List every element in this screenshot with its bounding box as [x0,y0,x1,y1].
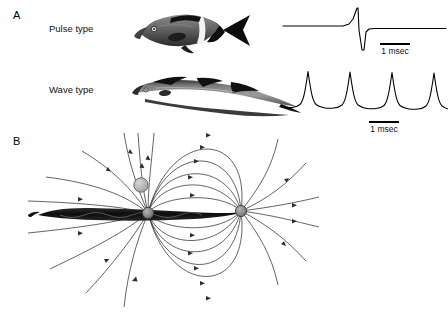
field-fish-body [38,208,244,221]
scalebar-label: 1 msec [355,124,413,134]
wave-type-fish-illustration [131,68,303,116]
field-object-sphere [134,178,148,192]
figure-root: A Pulse type Wave type [0,0,448,314]
row-label-wave-type: Wave type [49,84,94,95]
scalebar-line [380,43,410,45]
field-head-pole [142,207,153,218]
row-label-pulse-type: Pulse type [49,23,93,34]
field-tail-pole [235,205,246,216]
scalebar-pulse-type: 1 msec [366,43,424,56]
wave-type-waveform-trace [283,66,446,114]
pulse-type-fish-illustration [133,4,258,60]
electric-field-diagram [20,133,320,311]
scalebar-wave-type: 1 msec [355,121,413,134]
scalebar-label: 1 msec [366,46,424,56]
panel-label-a: A [13,9,21,21]
scalebar-line [369,121,399,123]
